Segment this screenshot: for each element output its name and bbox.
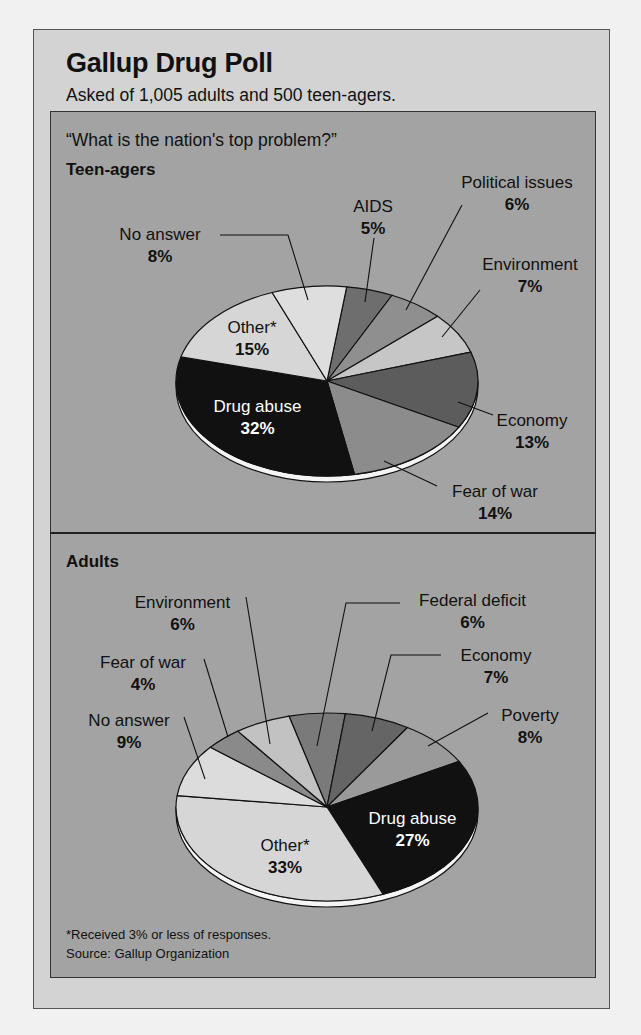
adult-label-environment: Environment6%: [115, 592, 250, 636]
teen-label-environment: Environment7%: [470, 254, 590, 298]
teen-label-other: Other*15%: [217, 317, 287, 361]
adult-label-economy: Economy7%: [446, 645, 546, 689]
teen-pie: [176, 286, 478, 482]
teen-label-aids: AIDS5%: [345, 196, 401, 240]
teen-label-fear-of-war: Fear of war14%: [440, 481, 550, 525]
adult-label-poverty: Poverty8%: [490, 705, 570, 749]
teen-label-drug-abuse: Drug abuse32%: [195, 396, 320, 440]
adult-label-federal-deficit: Federal deficit6%: [405, 590, 540, 634]
adult-label-drug-abuse: Drug abuse27%: [350, 808, 475, 852]
adult-label-no-answer: No answer9%: [76, 710, 182, 754]
teen-label-no-answer: No answer8%: [110, 224, 210, 268]
leader-adult-poverty: [428, 713, 488, 746]
leader-adult-fear-of-war: [204, 659, 228, 737]
source-note: Source: Gallup Organization: [66, 946, 229, 961]
teen-label-political: Political issues6%: [447, 172, 587, 216]
leader-teen-political: [406, 205, 462, 310]
footnote: *Received 3% or less of responses.: [66, 927, 271, 942]
adult-label-other: Other*33%: [245, 835, 325, 879]
teen-label-economy: Economy13%: [487, 410, 577, 454]
adult-label-fear-of-war: Fear of war4%: [88, 652, 198, 696]
